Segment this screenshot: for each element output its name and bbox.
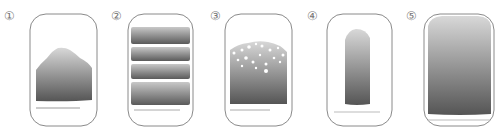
label-4: ④ <box>307 9 318 23</box>
container-5 <box>424 14 494 126</box>
container-2 <box>128 14 193 126</box>
container-3 <box>225 14 292 126</box>
label-2: ② <box>111 9 122 23</box>
label-1: ① <box>4 9 15 23</box>
container-4 <box>327 14 392 126</box>
label-5: ⑤ <box>406 9 417 23</box>
diagram-canvas <box>0 0 504 139</box>
label-3: ③ <box>210 9 221 23</box>
container-1 <box>30 14 97 126</box>
